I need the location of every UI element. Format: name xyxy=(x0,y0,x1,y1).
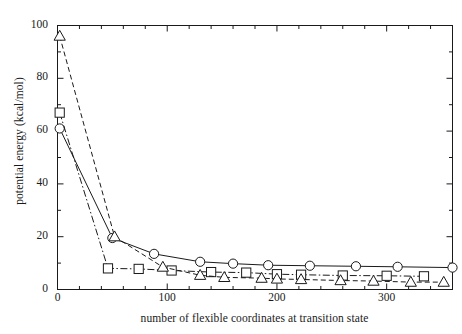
data-point-circle xyxy=(448,263,457,272)
data-point-circle xyxy=(264,261,273,270)
series-line xyxy=(60,36,444,282)
y-tick-label: 40 xyxy=(14,176,48,188)
y-tick-label: 60 xyxy=(14,123,48,135)
axis-ticks xyxy=(58,26,453,290)
y-tick-label: 20 xyxy=(14,229,48,241)
x-tick-label: 100 xyxy=(147,291,187,303)
data-point-square xyxy=(242,268,251,277)
plot-area xyxy=(0,0,462,334)
data-point-circle xyxy=(351,262,360,271)
data-point-circle xyxy=(55,124,64,133)
data-point-circle xyxy=(149,249,158,258)
x-axis-label: number of flexible coordinates at transi… xyxy=(57,312,452,324)
x-tick-label: 300 xyxy=(367,291,407,303)
data-point-square xyxy=(419,272,428,281)
series-line xyxy=(60,113,424,277)
series-circle xyxy=(55,124,457,272)
series-triangle xyxy=(54,30,449,286)
data-point-circle xyxy=(228,259,237,268)
data-point-circle xyxy=(305,261,314,270)
data-point-square xyxy=(103,264,112,273)
data-point-triangle xyxy=(405,276,416,286)
series-square xyxy=(55,108,428,281)
data-point-triangle xyxy=(368,275,379,285)
y-tick-label: 0 xyxy=(14,282,48,294)
x-tick-label: 200 xyxy=(257,291,297,303)
chart-figure: potential energy (kcal/mol) number of fl… xyxy=(0,0,462,334)
data-point-triangle xyxy=(438,276,449,286)
data-point-circle xyxy=(393,262,402,271)
data-point-circle xyxy=(196,257,205,266)
data-point-triangle xyxy=(54,30,65,40)
series-line xyxy=(60,128,453,267)
y-tick-label: 80 xyxy=(14,70,48,82)
data-point-square xyxy=(382,271,391,280)
plot-frame xyxy=(58,26,453,290)
y-tick-label: 100 xyxy=(14,18,48,30)
data-point-square xyxy=(55,108,64,117)
data-point-square xyxy=(207,267,216,276)
data-point-square xyxy=(134,264,143,273)
